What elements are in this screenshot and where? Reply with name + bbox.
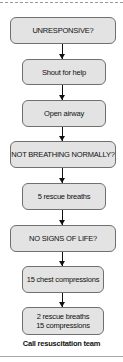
step-label-line2: 15 compressions: [36, 321, 90, 330]
step-not-breathing-normally: NOT BREATHING NORMALLY?: [10, 141, 116, 168]
arrow-down-icon: [62, 252, 63, 266]
call-resuscitation-team-label: Call resuscitation team: [0, 339, 123, 348]
arrow-down-icon: [62, 85, 63, 100]
bottom-divider: [0, 356, 123, 357]
step-label: 5 rescue breaths: [38, 192, 91, 201]
step-label: Shout for help: [42, 68, 86, 77]
step-unresponsive: UNRESPONSIVE?: [10, 17, 116, 44]
step-15-chest-compressions: 15 chest compressions: [22, 266, 104, 293]
step-label: 15 chest compressions: [27, 275, 100, 284]
step-label: UNRESPONSIVE?: [32, 26, 93, 35]
step-5-rescue-breaths: 5 rescue breaths: [22, 183, 106, 210]
step-label-line1: 2 rescue breaths: [37, 312, 90, 321]
step-label: Open airway: [44, 109, 84, 118]
step-open-airway: Open airway: [22, 100, 106, 127]
arrow-down-icon: [62, 168, 63, 183]
step-label: NOT BREATHING NORMALLY?: [11, 150, 114, 159]
arrow-down-icon: [62, 293, 63, 307]
arrow-down-icon: [62, 127, 63, 141]
step-label: NO SIGNS OF LIFE?: [29, 234, 97, 243]
step-no-signs-of-life: NO SIGNS OF LIFE?: [10, 225, 116, 252]
top-dotted-divider: [0, 2, 123, 3]
arrow-down-icon: [62, 44, 63, 59]
step-2-breaths-15-compressions: 2 rescue breaths 15 compressions: [22, 307, 104, 335]
step-shout-for-help: Shout for help: [22, 59, 106, 85]
arrow-down-icon: [62, 210, 63, 225]
